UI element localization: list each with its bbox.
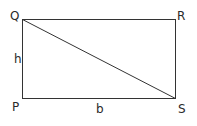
vertex-label-s: S: [178, 102, 186, 116]
diagonal-qs: [23, 20, 176, 99]
vertex-label-q: Q: [10, 9, 19, 23]
side-label-h: h: [14, 52, 22, 66]
rectangle-diagram: Q R P S h b: [0, 0, 197, 126]
vertex-label-r: R: [177, 9, 185, 23]
vertex-label-p: P: [12, 100, 19, 114]
side-label-b: b: [96, 102, 104, 116]
